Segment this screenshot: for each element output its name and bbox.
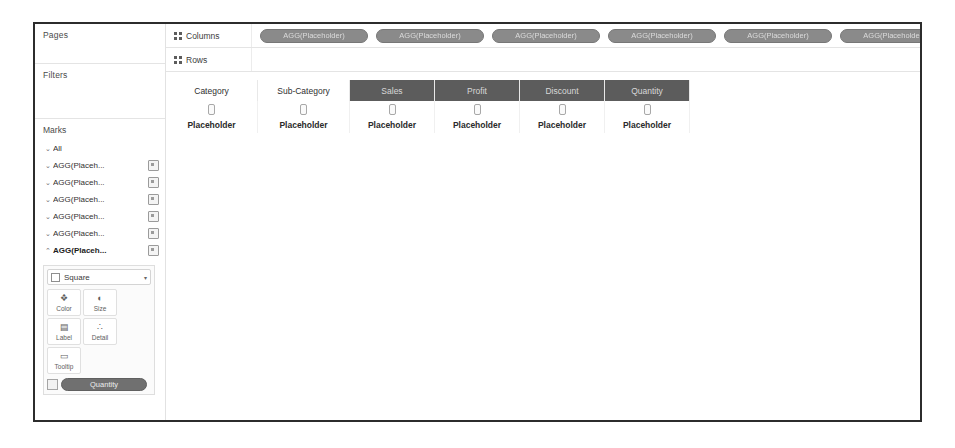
chevron-icon[interactable]: ⌄ [43,212,53,222]
table-sort-row [166,101,690,117]
column-header[interactable]: Sub-Category [258,80,350,101]
sort-glyph[interactable] [559,104,566,115]
column-header[interactable]: Category [166,80,258,101]
columns-shelf-pill[interactable]: AGG(Placeholder) [724,29,832,43]
chevron-icon[interactable]: ⌃ [43,246,53,256]
columns-shelf-pill[interactable]: AGG(Placeholder) [608,29,716,43]
legend-pill-quantity[interactable]: Quantity [61,378,147,391]
marks-card-title: Marks [43,125,165,135]
color-legend-icon [47,379,58,390]
columns-shelf-pill[interactable]: AGG(Placeholder) [492,29,600,43]
color-icon: ❖ [60,293,68,304]
sort-glyph[interactable] [389,104,396,115]
sort-glyph[interactable] [208,104,215,115]
size-icon: ◐ [97,293,102,304]
button-label: Size [94,305,107,313]
mark-row-label: AGG(Placeh... [53,161,148,170]
rows-shelf-label-cell: Rows [166,48,252,71]
columns-shelf[interactable]: Columns AGG(Placeholder)AGG(Placeholder)… [166,24,920,48]
chevron-icon[interactable]: ⌄ [43,161,53,171]
marks-button-grid: ❖Color◐Size▤Label∴Detail▭Tooltip [47,289,151,374]
sort-indicator-cell[interactable] [166,101,258,117]
tableau-worksheet-window: Pages Filters Marks ⌄All⌄AGG(Placeh...⌄A… [33,22,922,422]
button-label: Tooltip [55,363,74,371]
chevron-down-icon: ▾ [144,274,147,281]
button-label: Color [56,305,72,313]
sort-indicator-cell[interactable] [520,101,605,117]
mark-row[interactable]: ⌄AGG(Placeh... [43,174,165,191]
column-header[interactable]: Sales [350,80,435,101]
main-area: Columns AGG(Placeholder)AGG(Placeholder)… [166,24,920,420]
mark-row[interactable]: ⌄AGG(Placeh... [43,225,165,242]
mark-row-label: AGG(Placeh... [53,229,148,238]
mark-row[interactable]: ⌄AGG(Placeh... [43,191,165,208]
columns-shelf-pill[interactable]: AGG(Placeholder) [376,29,484,43]
mark-type-mini-icon[interactable] [148,245,159,256]
chevron-icon[interactable]: ⌄ [43,144,53,154]
mark-row[interactable]: ⌄AGG(Placeh... [43,157,165,174]
sort-indicator-cell[interactable] [258,101,350,117]
chevron-icon[interactable]: ⌄ [43,195,53,205]
sort-indicator-cell[interactable] [350,101,435,117]
mark-type-mini-icon[interactable] [148,194,159,205]
table-placeholder-row: PlaceholderPlaceholderPlaceholderPlaceho… [166,117,690,133]
columns-shelf-pill[interactable]: AGG(Placeholder) [260,29,368,43]
button-label: Detail [92,334,109,342]
chevron-icon[interactable]: ⌄ [43,229,53,239]
mark-row[interactable]: ⌄AGG(Placeh... [43,208,165,225]
rows-shelf[interactable]: Rows [166,48,920,72]
columns-shelf-label-cell: Columns [166,24,252,47]
mark-row-label: AGG(Placeh... [53,246,148,255]
label-button[interactable]: ▤Label [47,318,81,345]
sort-indicator-cell[interactable] [435,101,520,117]
table-cell-placeholder: Placeholder [350,117,435,133]
left-sidebar: Pages Filters Marks ⌄All⌄AGG(Placeh...⌄A… [35,24,166,420]
mark-row-label: AGG(Placeh... [53,195,148,204]
column-header[interactable]: Quantity [605,80,690,101]
pages-shelf-title: Pages [43,30,165,40]
color-button[interactable]: ❖Color [47,289,81,316]
viz-pane[interactable]: CategorySub-CategorySalesProfitDiscountQ… [166,72,920,420]
mark-type-mini-icon[interactable] [148,228,159,239]
pages-shelf[interactable]: Pages [35,24,165,64]
table-header-row: CategorySub-CategorySalesProfitDiscountQ… [166,80,690,101]
filters-shelf[interactable]: Filters [35,64,165,119]
table-cell-placeholder: Placeholder [605,117,690,133]
columns-pill-track[interactable]: AGG(Placeholder)AGG(Placeholder)AGG(Plac… [252,29,920,43]
mark-type-mini-icon[interactable] [148,160,159,171]
mark-type-mini-icon[interactable] [148,211,159,222]
grid-icon [174,32,182,40]
marks-controls-panel: Square ▾ ❖Color◐Size▤Label∴Detail▭Toolti… [43,265,155,395]
filters-shelf-title: Filters [43,70,165,80]
marks-card: Marks ⌄All⌄AGG(Placeh...⌄AGG(Placeh...⌄A… [35,119,165,420]
crosstab-header-table: CategorySub-CategorySalesProfitDiscountQ… [166,80,690,133]
detail-button[interactable]: ∴Detail [83,318,117,345]
chevron-icon[interactable]: ⌄ [43,178,53,188]
sort-indicator-cell[interactable] [605,101,690,117]
sort-glyph[interactable] [474,104,481,115]
mark-type-dropdown[interactable]: Square ▾ [47,269,151,285]
mark-row[interactable]: ⌃AGG(Placeh... [43,242,165,259]
table-cell-placeholder: Placeholder [166,117,258,133]
color-legend-row[interactable]: Quantity [47,378,151,391]
tooltip-button[interactable]: ▭Tooltip [47,347,81,374]
mark-row[interactable]: ⌄All [43,140,165,157]
sort-glyph[interactable] [644,104,651,115]
table-cell-placeholder: Placeholder [435,117,520,133]
columns-shelf-label: Columns [186,31,220,41]
table-cell-placeholder: Placeholder [258,117,350,133]
mark-type-label: Square [64,273,144,282]
button-label: Label [56,334,72,342]
tooltip-icon: ▭ [60,351,69,362]
sort-glyph[interactable] [300,104,307,115]
table-cell-placeholder: Placeholder [520,117,605,133]
mark-type-mini-icon[interactable] [148,177,159,188]
columns-shelf-pill[interactable]: AGG(Placeholder) [840,29,920,43]
detail-icon: ∴ [97,322,103,333]
rows-shelf-label: Rows [186,55,207,65]
mark-row-label: All [53,144,159,153]
column-header[interactable]: Discount [520,80,605,101]
mark-row-label: AGG(Placeh... [53,212,148,221]
size-button[interactable]: ◐Size [83,289,117,316]
column-header[interactable]: Profit [435,80,520,101]
